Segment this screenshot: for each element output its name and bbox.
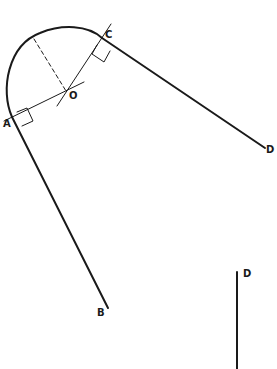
label-C: C bbox=[105, 29, 112, 40]
radius-line-CO bbox=[57, 24, 111, 106]
dashed-radius bbox=[34, 39, 66, 91]
label-B: B bbox=[97, 307, 105, 318]
radius-line-AO bbox=[4, 82, 84, 121]
label-A: A bbox=[3, 118, 11, 129]
label-D-vertical: D bbox=[243, 268, 251, 279]
label-D: D bbox=[266, 144, 274, 155]
right-angle-mark-C bbox=[92, 45, 110, 62]
label-O: O bbox=[69, 90, 78, 101]
line-AB bbox=[12, 117, 108, 308]
geometry-diagram: O A C D B D bbox=[0, 0, 277, 369]
line-CD bbox=[102, 38, 265, 148]
